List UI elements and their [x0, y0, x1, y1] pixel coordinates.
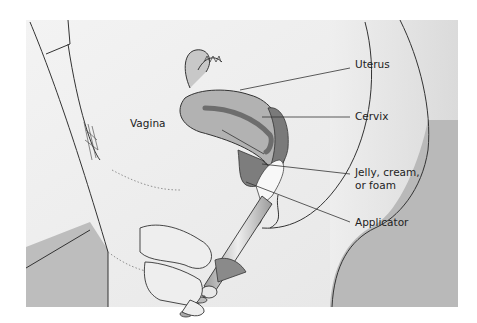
jelly-label-line1: Jelly, cream,: [355, 166, 420, 178]
jelly-label-line2: or foam: [355, 179, 396, 191]
diagram-canvas: Uterus Cervix Vagina Jelly, cream, or fo…: [0, 0, 477, 323]
applicator-label: Applicator: [355, 216, 408, 228]
anatomy-illustration: [0, 0, 477, 323]
uterus-label: Uterus: [355, 58, 390, 70]
cervix-label: Cervix: [355, 110, 388, 122]
vagina-label: Vagina: [130, 117, 165, 129]
